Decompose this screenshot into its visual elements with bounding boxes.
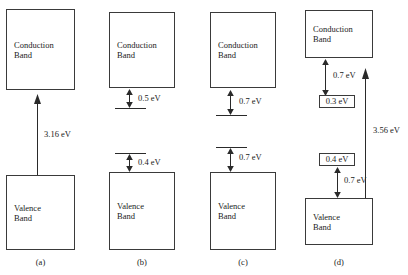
transition-value-b-acceptor: 0.4 eV	[138, 158, 161, 167]
transition-value-c-acceptor: 0.7 eV	[239, 153, 262, 162]
transition-value-c-donor: 0.7 eV	[239, 97, 262, 106]
transition-value-b-donor: 0.5 eV	[138, 94, 161, 103]
panel-b: Conduction Band 0.5 eV 0.4 eV Valence Ba…	[100, 0, 200, 275]
panel-caption-a: (a)	[6, 258, 75, 267]
panel-caption-d: (d)	[305, 258, 373, 267]
panel-caption-c: (c)	[210, 258, 276, 267]
transition-arrow-b-donor	[125, 89, 134, 108]
transition-arrow-a-bandgap	[33, 94, 42, 176]
transition-arrow-d-total	[361, 68, 370, 199]
valence-band-box-a: Valence Band	[6, 175, 75, 250]
valence-band-label-b: Valence Band	[117, 201, 144, 221]
panel-a: Conduction Band 3.16 eV Valence Band (a)	[0, 0, 100, 275]
conduction-band-label-c: Conduction Band	[218, 40, 258, 60]
valence-band-box-c: Valence Band	[210, 172, 276, 250]
conduction-band-label-a: Conduction Band	[14, 40, 54, 60]
panel-c: Conduction Band 0.7 eV 0.7 eV Valence Ba…	[200, 0, 300, 275]
upper-level-box-d: 0.3 eV	[319, 95, 355, 108]
transition-arrow-b-acceptor	[125, 154, 134, 172]
transition-arrow-c-donor	[226, 90, 235, 115]
valence-band-box-b: Valence Band	[109, 172, 175, 250]
donor-level-line-c	[216, 115, 247, 116]
conduction-band-label-b: Conduction Band	[117, 40, 157, 60]
valence-band-box-d: Valence Band	[305, 198, 373, 245]
transition-arrow-d-upper	[321, 59, 330, 96]
conduction-band-label-d: Conduction Band	[313, 24, 353, 44]
transition-arrow-c-acceptor	[226, 148, 235, 172]
valence-band-label-c: Valence Band	[218, 201, 245, 221]
valence-band-label-d: Valence Band	[313, 212, 340, 232]
upper-level-value-d: 0.3 eV	[326, 97, 349, 106]
panel-caption-b: (b)	[109, 258, 175, 267]
transition-value-a-bandgap: 3.16 eV	[44, 130, 71, 139]
energy-band-diagram-figure: Conduction Band 3.16 eV Valence Band (a)…	[0, 0, 408, 275]
lower-level-value-d: 0.4 eV	[326, 155, 349, 164]
transition-value-d-upper: 0.7 eV	[333, 71, 356, 80]
transition-arrow-d-lower	[333, 167, 342, 198]
conduction-band-box-d: Conduction Band	[305, 10, 373, 58]
transition-value-d-total: 3.56 eV	[373, 126, 400, 135]
conduction-band-box-a: Conduction Band	[6, 9, 75, 90]
conduction-band-box-c: Conduction Band	[210, 12, 276, 88]
lower-level-box-d: 0.4 eV	[319, 153, 355, 166]
panel-d: Conduction Band 0.7 eV 0.3 eV 0.4 eV 0.7…	[300, 0, 408, 275]
valence-band-label-a: Valence Band	[14, 203, 41, 223]
conduction-band-box-b: Conduction Band	[109, 12, 175, 88]
donor-level-line-b	[115, 108, 146, 109]
